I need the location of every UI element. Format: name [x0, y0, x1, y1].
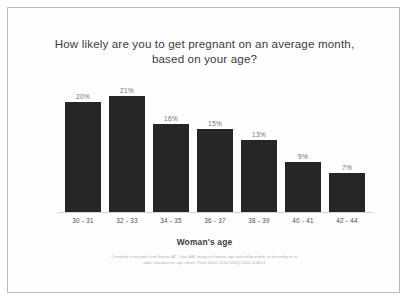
- bar-group: 15%: [197, 96, 233, 212]
- source-citation-line-2: older reproductive age cohort. Fertil St…: [52, 260, 357, 266]
- x-axis-tick-label: 34 - 35: [149, 217, 193, 224]
- bar: [197, 129, 233, 212]
- chart-frame: How likely are you to get pregnant on an…: [7, 7, 400, 293]
- x-axis-tick-label: 32 - 33: [105, 217, 149, 224]
- chart-screenshot: How likely are you to get pregnant on an…: [0, 0, 409, 302]
- bar-value-label: 15%: [197, 120, 233, 127]
- bar-group: 7%: [329, 96, 365, 212]
- x-axis-tick-label: 36 - 37: [193, 217, 237, 224]
- x-axis-tick-label: 38 - 39: [237, 217, 281, 224]
- bar-group: 9%: [285, 96, 321, 212]
- x-axis-baseline: [58, 212, 373, 213]
- x-axis-title: Woman's age: [32, 237, 377, 247]
- bar-value-label: 20%: [65, 93, 101, 100]
- x-axis-tick-label: 30 - 31: [61, 217, 105, 224]
- bar: [109, 96, 145, 212]
- bar-group: 20%: [65, 96, 101, 212]
- source-citation: Compiled using data from Steiner AZ, Juk…: [52, 254, 357, 267]
- bar-value-label: 21%: [109, 87, 145, 94]
- bar-group: 13%: [241, 96, 277, 212]
- bar-value-label: 16%: [153, 115, 189, 122]
- chart-title-line-1: How likely are you to get pregnant on an…: [32, 36, 377, 51]
- bar: [285, 162, 321, 212]
- bar-value-label: 9%: [285, 153, 321, 160]
- bar-value-label: 7%: [329, 164, 365, 171]
- bar: [241, 140, 277, 212]
- chart-title-line-2: based on your age?: [32, 51, 377, 66]
- bar: [329, 173, 365, 212]
- chart-title: How likely are you to get pregnant on an…: [32, 36, 377, 66]
- x-axis-tick-label: 42 - 44: [325, 217, 369, 224]
- bar-group: 21%: [109, 96, 145, 212]
- plot-area: 20%21%16%15%13%9%7%: [61, 96, 369, 212]
- bar: [153, 124, 189, 212]
- bar-value-label: 13%: [241, 131, 277, 138]
- x-axis-category-labels: 30 - 3132 - 3334 - 3536 - 3738 - 3940 - …: [61, 217, 369, 229]
- x-axis-tick-label: 40 - 41: [281, 217, 325, 224]
- bar-group: 16%: [153, 96, 189, 212]
- bar: [65, 102, 101, 212]
